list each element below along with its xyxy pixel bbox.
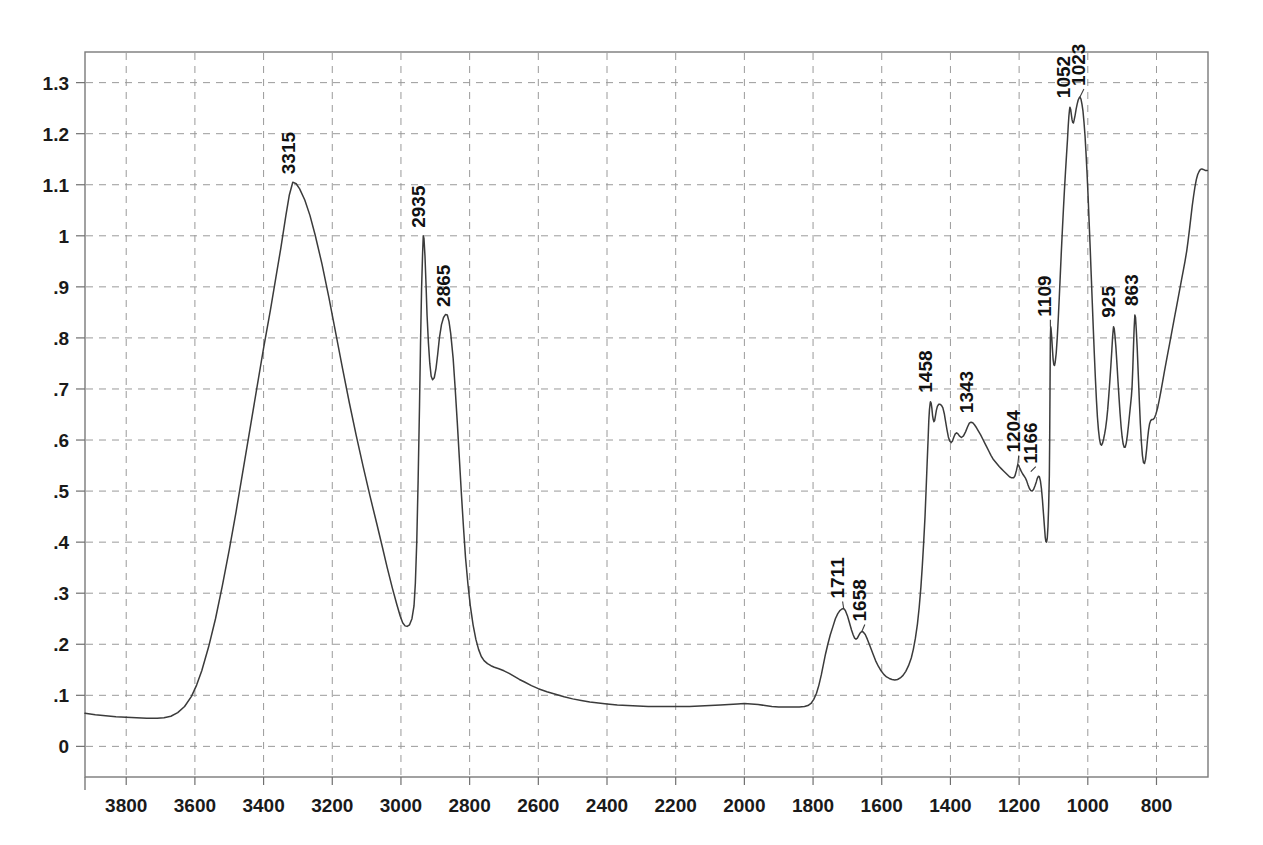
peak-label-2865: 2865: [433, 264, 454, 307]
x-axis-tick-label: 3600: [174, 795, 216, 816]
y-axis-tick-label: .2: [53, 634, 69, 655]
y-axis-tick-label: 1: [58, 226, 69, 247]
peak-leader-line: [1018, 456, 1019, 465]
spectrum-chart-canvas: 0.1.2.3.4.5.6.7.8.911.11.21.3 3800360034…: [0, 0, 1263, 845]
grid-lines: [86, 53, 1207, 776]
x-axis-tick-label: 3800: [105, 795, 147, 816]
spectrum-trace: [85, 97, 1207, 718]
x-axis-tick-label: 3200: [311, 795, 353, 816]
ir-spectrum-figure: 0.1.2.3.4.5.6.7.8.911.11.21.3 3800360034…: [0, 0, 1263, 845]
peak-leader-line: [843, 602, 844, 609]
y-axis-tick-label: 1.1: [43, 175, 70, 196]
y-axis-tick-label: .5: [53, 481, 69, 502]
peak-label-1023: 1023: [1068, 44, 1089, 86]
peak-leader-line: [1031, 467, 1036, 472]
x-axis-tick-label: 3400: [242, 795, 284, 816]
peak-label-925: 925: [1098, 286, 1119, 318]
plot-border: [85, 52, 1208, 777]
x-axis-tick-label: 3000: [380, 795, 422, 816]
peak-label-1458: 1458: [915, 350, 936, 392]
y-axis-tick-label: .9: [53, 277, 69, 298]
x-axis-tick-label: 2600: [517, 795, 559, 816]
y-axis-tick-label: 0: [58, 736, 69, 757]
peak-label-2935: 2935: [408, 185, 429, 228]
peak-leader-line: [1080, 89, 1084, 97]
x-axis-tick-label: 2800: [448, 795, 490, 816]
y-axis-tick-label: 1.3: [43, 73, 69, 94]
y-axis-tick-label: .3: [53, 583, 69, 604]
x-axis-tick-labels: 3800360034003200300028002600240022002000…: [105, 795, 1172, 816]
x-axis-tick-label: 2400: [586, 795, 628, 816]
x-axis-tick-label: 1600: [861, 795, 903, 816]
y-axis-tick-label: .7: [53, 379, 69, 400]
y-axis-tick-labels: 0.1.2.3.4.5.6.7.8.911.11.21.3: [43, 73, 70, 758]
peak-label-863: 863: [1121, 274, 1142, 306]
peak-leader-line: [862, 624, 865, 631]
peak-label-1711: 1711: [827, 557, 848, 599]
x-axis-tick-label: 1000: [1067, 795, 1109, 816]
y-axis-tick-label: .1: [53, 685, 69, 706]
x-axis-ticks: [126, 777, 1156, 785]
y-axis-tick-label: .8: [53, 328, 69, 349]
spectrum-trace-group: [85, 97, 1207, 718]
plot-frame: [85, 52, 1208, 790]
peak-label-1658: 1658: [849, 579, 870, 621]
y-axis-tick-label: 1.2: [43, 124, 69, 145]
x-axis-tick-label: 1800: [792, 795, 834, 816]
x-axis-tick-label: 2200: [655, 795, 697, 816]
y-axis-tick-label: .6: [53, 430, 69, 451]
x-axis-tick-label: 1200: [998, 795, 1040, 816]
peak-label-3315: 3315: [278, 131, 299, 174]
peak-label-1166: 1166: [1020, 422, 1041, 463]
peak-label-1343: 1343: [956, 371, 977, 413]
y-axis-tick-label: .4: [53, 532, 69, 553]
x-axis-tick-label: 1400: [929, 795, 971, 816]
peak-label-1109: 1109: [1034, 275, 1055, 316]
x-axis-tick-label: 800: [1141, 795, 1173, 816]
x-axis-tick-label: 2000: [723, 795, 765, 816]
y-axis-ticks: [76, 83, 85, 747]
